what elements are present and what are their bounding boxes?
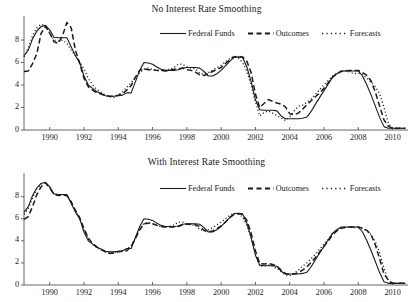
series-forecasts: [24, 183, 405, 283]
legend-label: Forecasts: [350, 184, 381, 193]
x-tick-label: 1998: [172, 133, 202, 142]
x-tick-label: 1992: [69, 288, 99, 297]
y-tick-label: 2: [5, 102, 19, 111]
x-tick-label: 1990: [35, 133, 65, 142]
y-tick-label: 4: [5, 235, 19, 244]
x-tick-label: 2000: [206, 133, 236, 142]
y-tick-label: 8: [5, 35, 19, 44]
y-tick-label: 8: [5, 191, 19, 200]
legend-label: Federal Funds: [188, 184, 235, 193]
legend-item-federal-funds: Federal Funds: [160, 28, 235, 38]
x-tick-label: 1996: [138, 133, 168, 142]
legend-key-solid-icon: [160, 30, 186, 37]
x-tick-label: 2008: [343, 288, 373, 297]
legend-label: Forecasts: [350, 29, 381, 38]
x-tick-label: 1994: [103, 288, 133, 297]
legend-item-outcomes: Outcomes: [248, 28, 309, 38]
x-tick-label: 2008: [343, 133, 373, 142]
legend-item-forecasts: Forecasts: [322, 183, 381, 193]
y-tick-label: 0: [5, 280, 19, 289]
legend-item-federal-funds: Federal Funds: [160, 183, 235, 193]
y-tick-label: 4: [5, 80, 19, 89]
series-outcomes: [24, 183, 405, 283]
legend-label: Outcomes: [276, 184, 309, 193]
panel-with-smoothing: With Interest Rate Smoothing Federal Fun…: [0, 151, 413, 302]
legend-no-smoothing: Federal FundsOutcomesForecasts: [160, 28, 381, 40]
y-tick-label: 2: [5, 257, 19, 266]
legend-with-smoothing: Federal FundsOutcomesForecasts: [160, 183, 381, 195]
series-federal-funds: [24, 25, 405, 128]
plot-area-with-smoothing: [0, 151, 413, 302]
x-tick-label: 2006: [309, 288, 339, 297]
x-tick-label: 1998: [172, 288, 202, 297]
legend-key-dashed-icon: [248, 185, 274, 192]
x-tick-label: 2006: [309, 133, 339, 142]
x-tick-label: 2004: [275, 133, 305, 142]
x-tick-label: 2002: [240, 133, 270, 142]
x-tick-label: 2004: [275, 288, 305, 297]
legend-label: Outcomes: [276, 29, 309, 38]
y-tick-label: 6: [5, 57, 19, 66]
y-tick-label: 6: [5, 213, 19, 222]
y-tick-label: 0: [5, 125, 19, 134]
x-tick-label: 1994: [103, 133, 133, 142]
plot-area-no-smoothing: [0, 0, 413, 151]
legend-key-dashed-icon: [248, 30, 274, 37]
x-tick-label: 2010: [378, 133, 408, 142]
legend-label: Federal Funds: [188, 29, 235, 38]
x-tick-label: 2010: [378, 288, 408, 297]
series-federal-funds: [24, 182, 405, 283]
panel-no-smoothing: No Interest Rate Smoothing Federal Funds…: [0, 0, 413, 151]
legend-key-dotted-icon: [322, 185, 348, 192]
x-tick-label: 2000: [206, 288, 236, 297]
x-tick-label: 1990: [35, 288, 65, 297]
legend-key-solid-icon: [160, 185, 186, 192]
x-tick-label: 2002: [240, 288, 270, 297]
legend-key-dotted-icon: [322, 30, 348, 37]
x-tick-label: 1992: [69, 133, 99, 142]
figure: No Interest Rate Smoothing Federal Funds…: [0, 0, 413, 302]
legend-item-outcomes: Outcomes: [248, 183, 309, 193]
legend-item-forecasts: Forecasts: [322, 28, 381, 38]
x-tick-label: 1996: [138, 288, 168, 297]
